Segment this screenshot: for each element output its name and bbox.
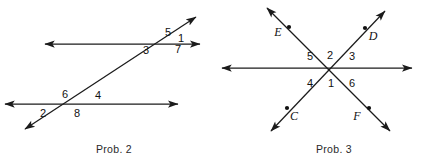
point-marker-f <box>367 106 371 110</box>
angle-label-6: 6 <box>62 88 68 100</box>
geometry-figure-page: 1 2 3 4 5 6 7 8 Prob. 2 E D C F 1 2 3 <box>0 0 424 160</box>
angle-label-3: 3 <box>349 50 355 62</box>
angle-label-2: 2 <box>40 107 46 119</box>
point-marker-c <box>285 106 289 110</box>
point-marker-e <box>287 25 291 29</box>
point-label-f: F <box>352 109 361 123</box>
point-label-d: D <box>368 29 378 43</box>
figure-prob-2: 1 2 3 4 5 6 7 8 Prob. 2 <box>5 17 200 155</box>
angle-label-5: 5 <box>165 26 171 38</box>
angle-label-7: 7 <box>175 43 181 55</box>
point-marker-d <box>363 26 367 30</box>
point-label-e: E <box>273 25 282 39</box>
angle-label-4: 4 <box>307 77 313 89</box>
angle-label-4: 4 <box>95 89 101 101</box>
figure-prob-3: E D C F 1 2 3 4 5 6 Prob. 3 <box>222 8 412 155</box>
angle-label-8: 8 <box>74 107 80 119</box>
caption-prob-2: Prob. 2 <box>96 143 132 155</box>
caption-prob-3: Prob. 3 <box>316 143 352 155</box>
line-ef <box>267 8 390 131</box>
angle-label-1: 1 <box>328 77 334 89</box>
angle-label-6: 6 <box>349 77 355 89</box>
angle-label-5: 5 <box>307 50 313 62</box>
angle-label-3: 3 <box>143 44 149 56</box>
figures-canvas: 1 2 3 4 5 6 7 8 Prob. 2 E D C F 1 2 3 <box>0 0 424 160</box>
point-label-c: C <box>290 109 299 123</box>
angle-label-2: 2 <box>327 49 333 61</box>
